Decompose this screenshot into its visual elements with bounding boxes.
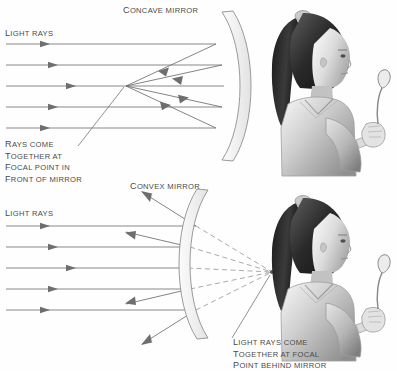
arrowhead-icon [160,102,171,111]
observer-figure-convex [272,196,390,362]
ear [321,243,327,252]
virtual-rays-convex [188,226,272,310]
ear [321,58,327,67]
arrowhead-icon [172,76,183,85]
label-concave-mirror-title: CONCAVE MIRROR [123,5,198,15]
diagram-canvas: CONCAVE MIRROR LIGHT RAYS RAYS COME TOGE… [0,0,397,371]
arrowhead-icon [40,223,50,229]
optics-diagram: CONCAVE MIRROR LIGHT RAYS RAYS COME TOGE… [0,0,397,371]
label-convex-light-rays: LIGHT RAYS [5,208,53,218]
caption-leader-line [232,275,270,338]
reflected-ray [126,65,222,86]
reflected-ray-arrowheads-concave [158,68,189,111]
reflected-ray [126,86,222,107]
arrowhead-icon [48,104,58,110]
incoming-rays-convex [6,226,196,310]
arrowhead-icon [48,286,58,292]
concave-mirror-arc [222,11,251,161]
observer-figure-concave [272,11,390,177]
virtual-ray [196,226,272,272]
arrowhead-icon [48,244,58,250]
arrowhead-icon [141,191,152,202]
arrowhead-icon [66,83,76,89]
hand [362,307,385,332]
arrowhead-icon [40,41,50,47]
convex-mirror-arc [179,189,208,339]
caption-concave: RAYS COME TOGETHER AT FOCAL POINT IN FRO… [5,133,82,184]
arrowhead-icon [125,297,136,306]
spoon-bowl [378,70,390,88]
label-concave-light-rays: LIGHT RAYS [5,28,53,38]
arrowhead-icon [125,231,136,240]
panel-convex [6,189,390,361]
hand [362,122,385,147]
arrowhead-icon [66,265,76,271]
virtual-ray [190,272,272,289]
eye [340,239,345,243]
eye [340,54,345,58]
arrowhead-icon [141,334,152,345]
arrowhead-icon [40,125,50,131]
label-convex-mirror-title: CONVEX MIRROR [130,181,200,191]
spoon-bowl [378,255,390,273]
virtual-ray [190,247,272,272]
arrowhead-icon [40,307,50,313]
arrowhead-icon [48,62,58,68]
incoming-rays-concave [6,44,224,128]
spoon-handle [377,88,382,124]
caption-leader-line [78,87,124,146]
spoon-handle [377,273,382,309]
